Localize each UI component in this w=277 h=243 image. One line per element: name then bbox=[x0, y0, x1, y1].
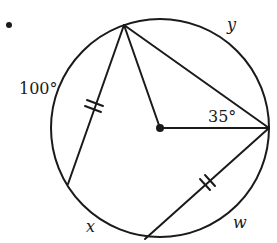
arc-label-y: y bbox=[226, 15, 237, 34]
arc-label-100: 100° bbox=[19, 79, 58, 98]
chord-top-right bbox=[124, 25, 269, 128]
arc-label-x: x bbox=[86, 217, 95, 236]
chord-right-bottom bbox=[145, 128, 269, 239]
bullet-dot bbox=[6, 22, 12, 28]
radius-top bbox=[124, 25, 160, 128]
chord-top-left bbox=[68, 25, 124, 184]
angle-label-35: 35° bbox=[208, 107, 236, 126]
tick-marks-top-left-chord bbox=[85, 100, 103, 112]
arc-label-w: w bbox=[233, 213, 247, 232]
circle-diagram: 100° y 35° x w bbox=[0, 0, 277, 243]
center-point bbox=[156, 124, 164, 132]
